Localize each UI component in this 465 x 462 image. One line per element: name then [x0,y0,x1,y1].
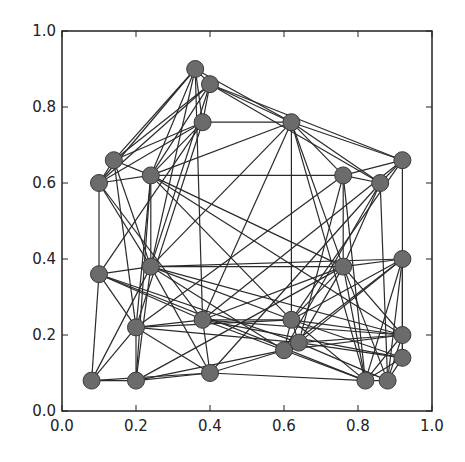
graph-node [202,365,219,382]
graph-node [142,167,159,184]
graph-node [394,251,411,268]
y-tick-label: 1.0 [32,22,56,40]
graph-edge [210,84,291,122]
y-tick-label: 0.2 [32,326,56,344]
graph-edge [151,267,292,320]
graph-edge [151,175,292,319]
graph-edge [136,327,210,373]
graph-node [276,342,293,359]
x-axis-tick-labels: 0.00.20.40.60.81.0 [50,417,444,435]
y-tick-label: 0.4 [32,250,56,268]
graph-node [194,114,211,131]
graph-node [335,258,352,275]
graph-node [357,372,374,389]
graph-edge [136,327,299,342]
graph-node [91,266,108,283]
x-tick-label: 0.4 [198,417,222,435]
y-tick-label: 0.8 [32,98,56,116]
graph-node [187,61,204,78]
graph-node [83,372,100,389]
graph-edge [92,274,99,380]
x-tick-label: 1.0 [420,417,444,435]
graph-node [335,167,352,184]
graph-node [283,311,300,328]
graph-node [372,175,389,192]
graph-node [283,114,300,131]
graph-node [202,76,219,93]
graph-edge [151,267,284,351]
graph-edge [343,267,402,335]
graph-node [91,175,108,192]
graph-node [105,152,122,169]
y-tick-label: 0.6 [32,174,56,192]
graph-edge [343,267,387,381]
graph-edge [210,373,365,381]
graph-node [142,258,159,275]
network-chart: 0.00.20.40.60.81.0 0.00.20.40.60.81.0 [0,0,465,462]
graph-node [290,334,307,351]
y-axis-tick-labels: 0.00.20.40.60.81.0 [32,22,56,420]
graph-edge [92,327,136,380]
y-tick-label: 0.0 [32,402,56,420]
graph-node [128,372,145,389]
graph-edge [151,175,403,335]
graph-node [394,327,411,344]
graph-node [394,152,411,169]
graph-edge [210,350,284,373]
graph-edge [136,175,151,380]
graph-node [194,311,211,328]
graph-edge [195,69,202,320]
graph-node [128,319,145,336]
graph-edge [151,175,343,266]
graph-edge [151,122,292,175]
graph-node [394,349,411,366]
graph-edge [203,267,344,320]
x-tick-label: 0.8 [346,417,370,435]
graph-edge [151,69,195,175]
x-tick-label: 0.2 [124,417,148,435]
graph-node [379,372,396,389]
x-tick-label: 0.6 [272,417,296,435]
